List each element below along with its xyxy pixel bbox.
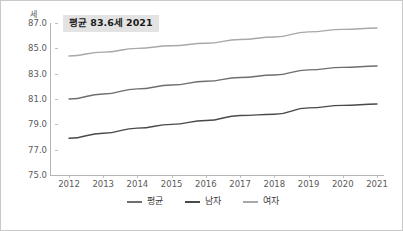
x-tick-mark	[240, 175, 241, 178]
x-tick-label: 2021	[366, 180, 388, 189]
x-tick-label: 2012	[58, 180, 80, 189]
series-line	[69, 28, 377, 56]
legend-item[interactable]: 여자	[243, 197, 279, 206]
y-tick-label: 81.0	[13, 95, 47, 104]
x-tick-mark	[206, 175, 207, 178]
x-tick-label: 2018	[264, 180, 286, 189]
legend-label: 평균	[147, 197, 163, 206]
y-tick-label: 87.0	[13, 19, 47, 28]
legend-item[interactable]: 남자	[185, 197, 221, 206]
legend-item[interactable]: 평균	[127, 197, 163, 206]
chart-legend: 평균남자여자	[1, 197, 403, 206]
series-lines	[50, 23, 384, 175]
x-tick-label: 2013	[92, 180, 114, 189]
x-tick-mark	[343, 175, 344, 178]
x-axis-tick-labels: 2012201320142015201620172018201920202021	[50, 177, 384, 193]
x-tick-label: 2017	[229, 180, 251, 189]
x-tick-mark	[309, 175, 310, 178]
x-tick-mark	[274, 175, 275, 178]
life-expectancy-line-chart: 세 평균 83.6세 2021 75.077.079.081.083.085.0…	[0, 0, 403, 231]
x-tick-label: 2014	[127, 180, 149, 189]
x-tick-label: 2016	[195, 180, 217, 189]
y-tick-label: 83.0	[13, 69, 47, 78]
x-tick-mark	[172, 175, 173, 178]
x-tick-mark	[137, 175, 138, 178]
x-tick-mark	[377, 175, 378, 178]
y-axis-tick-labels: 75.077.079.081.083.085.087.0	[7, 23, 47, 175]
legend-swatch-icon	[127, 201, 142, 203]
legend-swatch-icon	[185, 201, 200, 203]
legend-swatch-icon	[243, 201, 258, 203]
y-tick-label: 75.0	[13, 171, 47, 180]
x-tick-mark	[69, 175, 70, 178]
x-tick-label: 2020	[332, 180, 354, 189]
y-tick-label: 79.0	[13, 120, 47, 129]
legend-label: 남자	[205, 197, 221, 206]
series-line	[69, 104, 377, 138]
x-tick-mark	[103, 175, 104, 178]
x-tick-label: 2015	[161, 180, 183, 189]
x-tick-label: 2019	[298, 180, 320, 189]
y-tick-label: 85.0	[13, 44, 47, 53]
series-line	[69, 66, 377, 99]
plot-area	[50, 23, 384, 175]
x-axis-line	[50, 175, 384, 176]
y-tick-label: 77.0	[13, 145, 47, 154]
legend-label: 여자	[263, 197, 279, 206]
